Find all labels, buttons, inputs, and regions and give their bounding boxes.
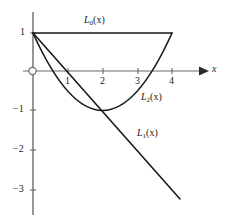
curve-L1 — [33, 33, 180, 199]
plot-svg — [0, 0, 227, 221]
curve-label-L2-suffix: (x) — [150, 91, 162, 102]
y-tick-label-1: 1 — [20, 27, 25, 37]
y-tick-label-neg2: −2 — [13, 144, 24, 154]
x-tick-label-3: 3 — [135, 76, 140, 86]
figure-canvas: 1 −1 −2 −3 1 2 3 4 x L0(x) L2(x) L1(x) — [0, 0, 227, 221]
curve-label-L1: L1(x) — [137, 128, 158, 140]
curve-label-L0-suffix: (x) — [93, 14, 105, 25]
x-tick-label-2: 2 — [100, 76, 105, 86]
origin-marker-icon — [29, 67, 36, 74]
curve-label-L0: L0(x) — [84, 15, 105, 27]
x-axis-label: x — [212, 64, 216, 74]
y-tick-label-neg3: −3 — [13, 184, 24, 194]
y-tick-label-neg1: −1 — [13, 104, 24, 114]
x-tick-label-1: 1 — [65, 76, 70, 86]
x-axis-arrowhead — [199, 67, 209, 76]
curve-label-L1-suffix: (x) — [146, 127, 158, 138]
x-tick-label-4: 4 — [169, 76, 174, 86]
curve-label-L2: L2(x) — [141, 92, 162, 104]
